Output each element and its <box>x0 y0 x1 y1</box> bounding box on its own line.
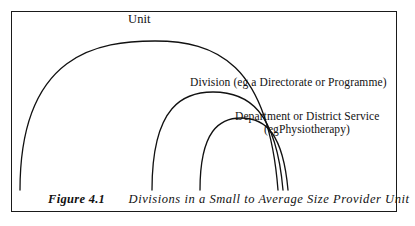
label-department-line2: (egPhysiotherapy) <box>235 123 379 136</box>
figure-caption: Figure 4.1 Divisions in a Small to Avera… <box>48 192 410 207</box>
caption-number: Figure 4.1 <box>48 192 105 206</box>
division-arc <box>152 92 283 190</box>
caption-text: Divisions in a Small to Average Size Pro… <box>129 192 410 206</box>
figure-container: Unit Division (eg a Directorate or Progr… <box>0 0 415 226</box>
label-department-line1: Department or District Service <box>235 110 379 123</box>
label-unit: Unit <box>128 13 151 26</box>
label-division: Division (eg a Directorate or Programme) <box>190 76 387 89</box>
